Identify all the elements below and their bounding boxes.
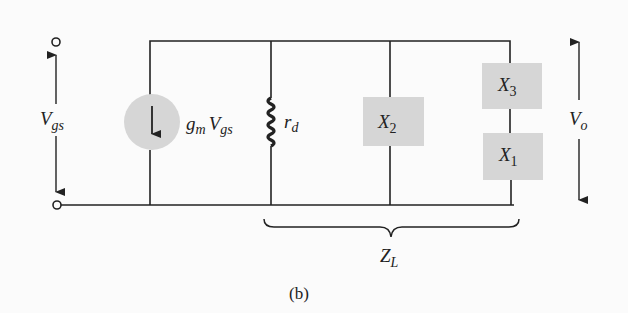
circuit-diagram: Vgs gmVgs rd X2 X3 X1 Vo ZL (b): [0, 0, 628, 313]
circuit-svg: Vgs gmVgs rd X2 X3 X1 Vo ZL (b): [0, 0, 628, 313]
figure-caption: (b): [289, 284, 309, 303]
zl-brace: [264, 219, 519, 237]
bottom-terminal: [53, 201, 61, 209]
vo-label: Vo: [569, 108, 588, 133]
top-terminal: [52, 38, 60, 46]
current-source: [124, 94, 180, 150]
resistor-rd-icon: [268, 98, 274, 146]
vgs-label: Vgs: [40, 108, 65, 133]
top-wire: [150, 41, 510, 122]
gm-vgs-label: gmVgs: [186, 113, 233, 137]
rd-label: rd: [284, 111, 299, 135]
zl-label: ZL: [380, 245, 399, 270]
